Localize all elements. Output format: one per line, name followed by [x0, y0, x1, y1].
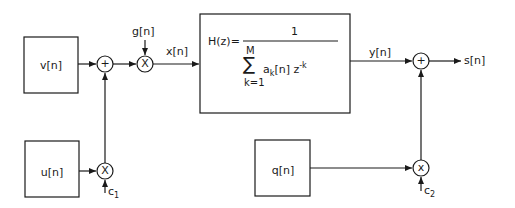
- signal-x-label: x[n]: [166, 46, 188, 57]
- diagram-lines: [0, 0, 515, 208]
- sum-lower-limit: k=1: [244, 78, 265, 88]
- signal-s-label: s[n]: [464, 55, 485, 66]
- v-block-label: v[n]: [40, 60, 62, 71]
- signal-c1-label: c1: [108, 186, 119, 197]
- filter-denominator-term: ak[n] z-k: [263, 64, 307, 75]
- u-block-label: u[n]: [41, 167, 64, 178]
- q-block-label: q[n]: [272, 165, 295, 176]
- mult-g-symbol: X: [141, 58, 149, 69]
- sum-symbol: ∑: [243, 55, 255, 73]
- sum2-symbol: +: [416, 55, 425, 66]
- sum1-symbol: +: [100, 58, 109, 69]
- signal-c2-label: c2: [424, 185, 435, 196]
- mult-c2-symbol: x: [418, 162, 425, 173]
- mult-c1-symbol: X: [101, 165, 109, 176]
- filter-numerator: 1: [291, 26, 298, 37]
- signal-y-label: y[n]: [369, 47, 391, 58]
- signal-g-label: g[n]: [132, 26, 155, 37]
- filter-lhs: H(z)=: [208, 36, 240, 47]
